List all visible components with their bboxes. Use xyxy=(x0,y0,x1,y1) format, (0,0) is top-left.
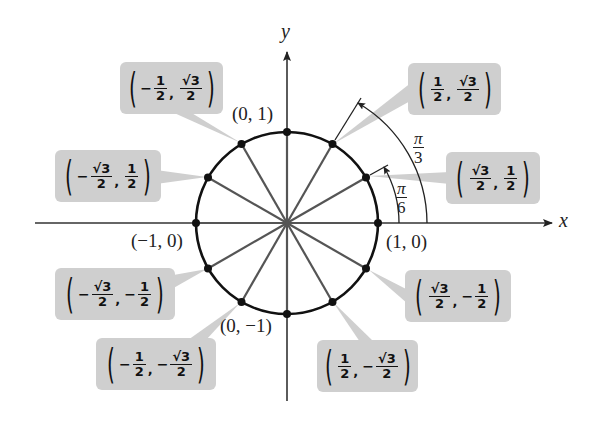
label-point-right: (1, 0) xyxy=(386,231,427,253)
pointer-q4-330 xyxy=(369,270,408,304)
point-270 xyxy=(283,310,291,318)
callout-q1-30: ( √32 , 12 ) xyxy=(446,152,540,204)
angle-label-pi-over-3: π 3 xyxy=(413,130,424,167)
callout-q2-120: ( − 12 , √32 ) xyxy=(120,62,223,114)
x-fraction: 12 xyxy=(133,350,146,379)
x-fraction: 12 xyxy=(338,352,351,381)
y-fraction: 12 xyxy=(138,280,151,309)
y-fraction: 12 xyxy=(504,164,517,193)
point-30 xyxy=(362,174,370,182)
point-300 xyxy=(329,298,337,306)
angle-label-pi-over-6: π 6 xyxy=(396,180,407,217)
unit-circle-diagram xyxy=(0,0,606,423)
label-point-top: (0, 1) xyxy=(232,103,273,125)
y-fraction: √32 xyxy=(457,75,479,104)
pointer-q4-300 xyxy=(333,302,374,342)
y-fraction: 12 xyxy=(125,162,138,191)
y-fraction: √32 xyxy=(180,74,202,103)
pointer-q2-150 xyxy=(156,170,207,184)
point-180 xyxy=(192,219,200,227)
pointer-q2-120 xyxy=(172,112,241,143)
x-fraction: √32 xyxy=(470,164,492,193)
y-axis-label: y xyxy=(281,20,290,43)
point-120 xyxy=(238,140,246,148)
point-240 xyxy=(238,298,246,306)
callout-q4-300: ( 12 , − √32 ) xyxy=(317,340,418,392)
callout-q3-240: ( − 12 , − √32 ) xyxy=(96,338,216,390)
point-330 xyxy=(362,265,370,273)
y-fraction: √32 xyxy=(170,350,192,379)
point-60 xyxy=(329,140,337,148)
callout-q4-330: ( √32 , − 12 ) xyxy=(405,270,511,322)
right-paren: ) xyxy=(484,69,492,109)
point-210 xyxy=(204,265,212,273)
callout-q2-150: ( − √32 , 12 ) xyxy=(55,150,161,202)
x-fraction: √32 xyxy=(92,280,114,309)
pointer-q1-30 xyxy=(369,172,450,184)
callout-q3-210: ( − √32 , − 12 ) xyxy=(55,268,175,320)
x-axis-label: x xyxy=(559,209,568,232)
y-fraction: √32 xyxy=(376,352,398,381)
x-fraction: 12 xyxy=(431,75,444,104)
point-0 xyxy=(374,219,382,227)
x-fraction: √32 xyxy=(429,282,451,311)
callout-q1-60: ( 12 , √32 ) xyxy=(408,63,501,115)
x-fraction: 12 xyxy=(154,74,167,103)
label-point-left: (−1, 0) xyxy=(131,230,183,252)
x-fraction: √32 xyxy=(91,162,113,191)
y-fraction: 12 xyxy=(475,282,488,311)
point-90 xyxy=(283,128,291,136)
point-150 xyxy=(204,174,212,182)
label-point-bottom: (0, −1) xyxy=(220,315,272,337)
left-paren: ( xyxy=(417,69,425,109)
